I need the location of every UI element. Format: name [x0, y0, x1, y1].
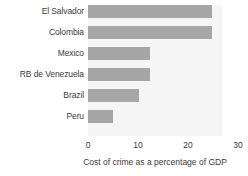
bar-chart: El Salvador Colombia Mexico RB de Venezu… [0, 0, 248, 176]
x-axis-title-wrap: Cost of crime as a percentage of GDP [0, 157, 248, 168]
bar-colombia [88, 26, 212, 39]
x-axis: 0 10 20 30 [88, 136, 248, 156]
category-label-peru: Peru [0, 110, 84, 123]
bars-layer [88, 5, 248, 136]
category-label-mexico: Mexico [0, 47, 84, 60]
category-axis-labels: El Salvador Colombia Mexico RB de Venezu… [0, 5, 84, 136]
x-tick-label-30: 30 [233, 140, 242, 150]
x-tick-label-10: 10 [133, 140, 142, 150]
bar-brazil [88, 89, 139, 102]
bar-rb-de-venezuela [88, 68, 150, 81]
x-tick-label-20: 20 [183, 140, 192, 150]
bar-el-basvador [88, 5, 212, 18]
bar-mexico [88, 47, 150, 60]
category-label-el-salvador: El Salvador [0, 5, 84, 18]
bar-peru [88, 110, 113, 123]
category-label-rb-de-venezuela: RB de Venezuela [0, 68, 84, 81]
x-axis-title: Cost of crime as a percentage of GDP [21, 157, 227, 168]
category-label-colombia: Colombia [0, 26, 84, 39]
category-label-brazil: Brazil [0, 89, 84, 102]
x-tick-label-0: 0 [86, 140, 91, 150]
